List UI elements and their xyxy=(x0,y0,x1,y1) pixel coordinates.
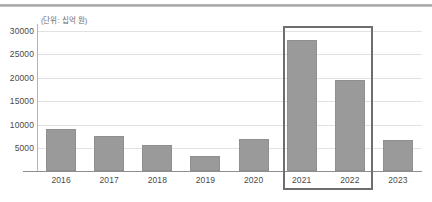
header-divider xyxy=(0,4,432,7)
bar-chart: (단위: 십억 원) 30000 25000 20000 15000 10000… xyxy=(0,0,432,202)
bar-2019 xyxy=(181,24,229,171)
bar-rect-2016 xyxy=(46,129,76,172)
y-axis-labels: 30000 25000 20000 15000 10000 5000 xyxy=(0,0,34,202)
bar-2020 xyxy=(230,24,278,171)
x-tick-2020: 2020 xyxy=(230,176,278,185)
y-tick-15000: 15000 xyxy=(0,97,34,106)
x-tick-2017: 2017 xyxy=(85,176,133,185)
bar-2023 xyxy=(374,24,422,171)
y-tick-25000: 25000 xyxy=(0,50,34,59)
x-tick-2016: 2016 xyxy=(37,176,85,185)
bar-rect-2020 xyxy=(239,139,269,172)
y-tick-10000: 10000 xyxy=(0,121,34,130)
bar-rect-2019 xyxy=(190,156,220,171)
bar-rect-2023 xyxy=(383,140,413,171)
highlight-box-2021-2022 xyxy=(283,26,373,190)
y-tick-30000: 30000 xyxy=(0,27,34,36)
bar-rect-2017 xyxy=(94,136,124,171)
x-tick-2018: 2018 xyxy=(133,176,181,185)
bar-2017 xyxy=(85,24,133,171)
bar-2018 xyxy=(133,24,181,171)
y-tick-20000: 20000 xyxy=(0,74,34,83)
y-tick-5000: 5000 xyxy=(0,144,34,153)
bar-rect-2018 xyxy=(142,145,172,172)
x-tick-2019: 2019 xyxy=(181,176,229,185)
bar-2016 xyxy=(37,24,85,171)
x-tick-2023: 2023 xyxy=(374,176,422,185)
